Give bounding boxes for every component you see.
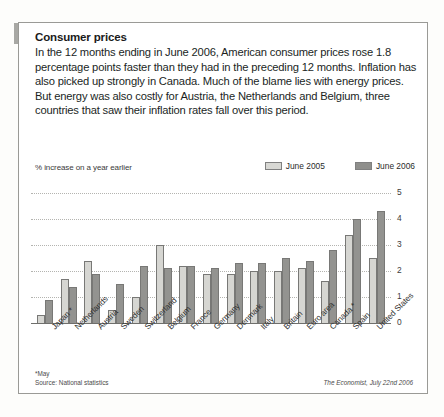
bar — [45, 300, 53, 323]
chart-subtitle: % increase on a year earlier — [35, 163, 132, 172]
bar — [37, 315, 45, 323]
legend-item-june-2006: June 2006 — [355, 161, 415, 171]
y-axis-tick-5: 5 — [397, 187, 402, 197]
legend-label-june-2006: June 2006 — [376, 161, 415, 171]
y-axis-tick-0: 0 — [397, 317, 402, 327]
bar — [369, 258, 377, 323]
y-axis-tick-3: 3 — [397, 239, 402, 249]
bar — [211, 268, 219, 323]
legend-swatch-icon-june-2005 — [265, 162, 282, 170]
chart-bars — [31, 193, 391, 323]
bar — [274, 271, 282, 323]
chart: % increase on a year earlier June 2005 J… — [19, 23, 429, 395]
legend-item-june-2005: June 2005 — [265, 161, 325, 171]
bar — [116, 284, 124, 323]
bar — [282, 258, 290, 323]
chart-legend: June 2005 June 2006 — [265, 161, 415, 171]
bar-group — [369, 211, 385, 323]
bar — [306, 261, 314, 323]
legend-label-june-2005: June 2005 — [286, 161, 325, 171]
footnote-source: Source: National statistics — [35, 379, 109, 387]
bar-group — [37, 300, 53, 323]
footnote-asterisk: *May — [35, 370, 109, 378]
article-card: Consumer prices In the 12 months ending … — [18, 22, 428, 394]
bar — [258, 263, 266, 323]
bar — [377, 211, 385, 323]
y-axis-tick-4: 4 — [397, 213, 402, 223]
legend-swatch-icon-june-2006 — [355, 162, 372, 170]
screenshot-page: Consumer prices In the 12 months ending … — [0, 0, 444, 417]
bar — [235, 263, 243, 323]
chart-plot-area: 012345 — [31, 193, 391, 323]
y-axis-tick-2: 2 — [397, 265, 402, 275]
chart-credit: The Economist, July 22nd 2006 — [323, 379, 413, 386]
chart-footnote: *May Source: National statistics — [35, 370, 109, 387]
bar-group — [274, 258, 290, 323]
